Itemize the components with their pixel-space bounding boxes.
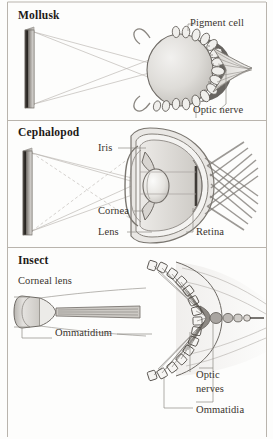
mollusk-light-source-bar bbox=[25, 27, 34, 108]
label-optic-nerve: Optic nerve bbox=[193, 105, 243, 116]
label-ommatidium: Ommatidium bbox=[55, 328, 112, 339]
cephalopod-light-source-bar bbox=[23, 148, 32, 235]
eye-comparison-figure bbox=[0, 0, 273, 439]
insect-corneal-lens-shape bbox=[14, 296, 40, 328]
panel-heading-mollusk: Mollusk bbox=[18, 10, 60, 22]
panel-heading-insect: Insect bbox=[18, 255, 49, 267]
label-optic-nerves-line1: Optic bbox=[196, 370, 220, 381]
label-ommatidia: Ommatidia bbox=[196, 405, 244, 416]
label-pigment-cell: Pigment cell bbox=[190, 18, 244, 29]
label-retina: Retina bbox=[196, 227, 224, 238]
label-optic-nerves-line2: nerves bbox=[196, 384, 224, 395]
label-cornea: Cornea bbox=[98, 206, 129, 217]
label-lens: Lens bbox=[98, 227, 119, 238]
panel-heading-cephalopod: Cephalopod bbox=[18, 127, 79, 139]
label-iris: Iris bbox=[98, 143, 112, 154]
label-corneal-lens: Corneal lens bbox=[18, 276, 72, 287]
